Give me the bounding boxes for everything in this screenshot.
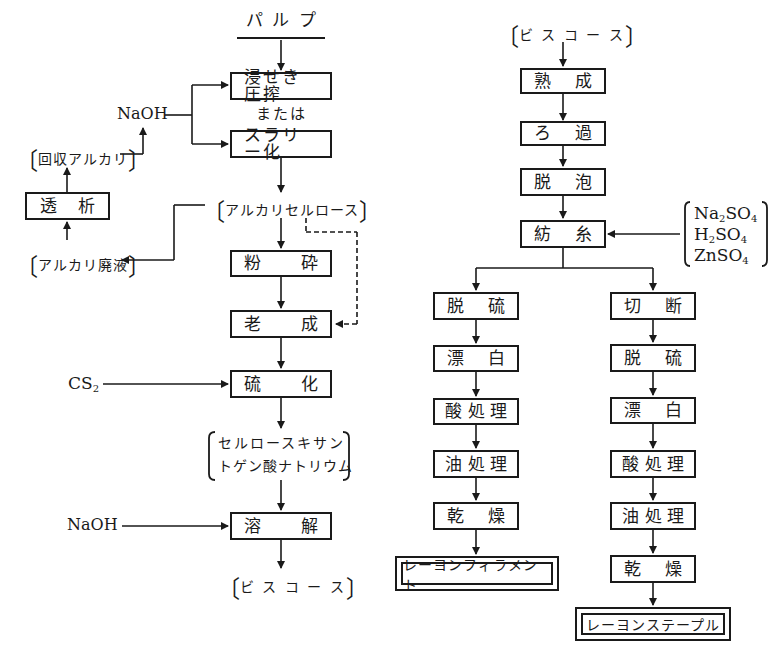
product-label: レーヨンフィラメント xyxy=(401,562,553,585)
chem-sub: 4 xyxy=(742,255,748,266)
xanthate-line-2: トゲン酸ナトリウム xyxy=(218,459,353,473)
step-label-a: 脱 xyxy=(624,350,641,367)
filament-step-acid-treatment: 酸 処 理 xyxy=(433,398,519,425)
step-label-a: 酸 xyxy=(622,456,639,473)
bracket-open: 〔 xyxy=(497,16,519,51)
step-crushing: 粉 砕 xyxy=(230,250,332,277)
step-label-b: 白 xyxy=(665,402,682,419)
pulp-underline xyxy=(237,37,325,39)
step-label-m: 処 xyxy=(468,403,485,420)
recovered-alkali-node: 〔 回収アルカリ 〕 xyxy=(16,142,150,174)
step-label: スラリー化 xyxy=(244,127,318,161)
step-dissolving: 溶 解 xyxy=(230,512,332,540)
cs2-subscript: 2 xyxy=(93,383,99,394)
step-steeping-pressing: 浸せき圧搾 xyxy=(230,72,332,100)
step-label-a: 硫 xyxy=(244,376,261,393)
cs2-input: CS2 xyxy=(68,375,99,394)
bracket-open: 〔 xyxy=(203,191,225,226)
xanthate-line-1: セルロースキサン xyxy=(218,436,345,450)
step-label-m: 処 xyxy=(645,508,662,525)
step-label-b: 硫 xyxy=(488,298,505,315)
viscose-output-label: ビ ス コ ー ス xyxy=(240,576,346,596)
step-label-a: 老 xyxy=(244,316,261,333)
naoh-input-bottom: NaOH xyxy=(67,517,118,533)
filament-step-oil-treatment: 油 処 理 xyxy=(433,450,519,478)
alkali-cellulose-label: アルカリセルロース xyxy=(225,199,359,219)
step-label-a: 乾 xyxy=(447,508,464,525)
filament-step-desulfurizing: 脱 硫 xyxy=(433,292,519,320)
step-label-a: 脱 xyxy=(534,174,551,191)
step-label-b: 過 xyxy=(575,125,592,142)
staple-step-oil-treatment: 油 処 理 xyxy=(610,502,696,530)
spin-bath-chemicals: Na2SO4 H2SO4 ZnSO4 xyxy=(682,200,770,268)
chem-part: H xyxy=(694,224,709,244)
step-label-b: 解 xyxy=(301,518,318,535)
product-rayon-staple: レーヨンステープル xyxy=(575,607,731,641)
staple-step-cutting: 切 断 xyxy=(610,292,696,320)
bracket-close: 〕 xyxy=(128,140,150,175)
step-label-a: 脱 xyxy=(447,298,464,315)
bracket-open: 〔 xyxy=(16,246,38,281)
step-label-b: 燥 xyxy=(665,561,682,578)
recovered-alkali-label: 回収アルカリ xyxy=(38,148,128,168)
step-defoaming: 脱 泡 xyxy=(520,168,606,196)
waste-alkali-node: 〔 アルカリ廃液 〕 xyxy=(16,248,150,280)
step-label-b: 白 xyxy=(488,350,505,367)
step-label-a: 油 xyxy=(445,456,462,473)
step-spinning: 紡 糸 xyxy=(520,220,606,248)
step-label-b: 断 xyxy=(665,298,682,315)
bracket-close: 〕 xyxy=(346,568,368,603)
product-label: レーヨンステープル xyxy=(581,613,725,635)
step-slurry: スラリー化 xyxy=(230,130,332,158)
viscose-process-flowchart: パ ル プ 浸せき圧搾 または スラリー化 NaOH 〔 回収アルカリ 〕 透 … xyxy=(0,0,781,659)
bracket-close: 〕 xyxy=(359,191,381,226)
step-xanthation: 硫 化 xyxy=(230,370,332,398)
sodium-xanthate-node: セルロースキサン トゲン酸ナトリウム xyxy=(206,430,352,482)
step-label-a: 漂 xyxy=(447,350,464,367)
step-label-a: ろ xyxy=(534,125,551,142)
step-label-a: 漂 xyxy=(624,402,641,419)
step-label-b: 成 xyxy=(575,73,592,90)
step-label-a: 乾 xyxy=(624,561,641,578)
chem-part: SO xyxy=(715,224,741,244)
step-label-a: 酸 xyxy=(445,403,462,420)
step-label-b: 糸 xyxy=(575,226,592,243)
step-label-a: 油 xyxy=(622,508,639,525)
step-label-a: 透 xyxy=(40,198,57,215)
chem-zinc-sulfate: ZnSO4 xyxy=(694,244,749,272)
step-label-b: 理 xyxy=(490,456,507,473)
step-label-a: 紡 xyxy=(534,226,551,243)
chem-sub: 4 xyxy=(751,213,757,224)
product-rayon-filament: レーヨンフィラメント xyxy=(395,556,559,591)
step-label-b: 成 xyxy=(301,316,318,333)
bracket-close: 〕 xyxy=(625,16,647,51)
or-label: または xyxy=(256,107,307,122)
step-label-b: 理 xyxy=(667,456,684,473)
step-label-m: 処 xyxy=(645,456,662,473)
step-dialysis: 透 析 xyxy=(25,192,110,220)
step-label-a: 粉 xyxy=(244,255,261,272)
staple-step-desulfurizing: 脱 硫 xyxy=(610,344,696,372)
bracket-close: 〕 xyxy=(128,246,150,281)
naoh-input-top: NaOH xyxy=(117,106,168,122)
pulp-label: パ ル プ xyxy=(246,12,318,29)
step-label-a: 熟 xyxy=(534,73,551,90)
step-label-b: 理 xyxy=(490,403,507,420)
step-label-b: 燥 xyxy=(488,508,505,525)
step-label-b: 析 xyxy=(78,198,95,215)
step-label-b: 化 xyxy=(301,376,318,393)
viscose-output-node: 〔 ビ ス コ ー ス 〕 xyxy=(218,570,368,602)
bracket-open: 〔 xyxy=(218,568,240,603)
staple-step-drying: 乾 燥 xyxy=(610,555,696,583)
waste-alkali-label: アルカリ廃液 xyxy=(38,254,128,274)
step-label: 浸せき圧搾 xyxy=(244,69,318,103)
chem-part: SO xyxy=(725,203,751,223)
step-label-b: 泡 xyxy=(575,174,592,191)
step-aging: 老 成 xyxy=(230,310,332,338)
viscose-input-node: 〔 ビ ス コ ー ス 〕 xyxy=(497,18,647,50)
chem-part: Na xyxy=(694,203,719,223)
chem-part: ZnSO xyxy=(694,245,742,265)
viscose-input-label: ビ ス コ ー ス xyxy=(519,24,625,44)
step-label-m: 処 xyxy=(468,456,485,473)
step-label-b: 砕 xyxy=(301,255,318,272)
